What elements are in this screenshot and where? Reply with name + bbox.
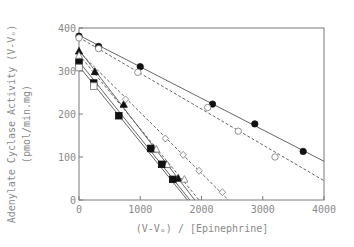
x-tick-label: 2000 — [189, 204, 213, 215]
open-diamond-marker — [219, 189, 225, 196]
y-axis-title: Adenylate Cyclase Activity (V-Vₒ) — [6, 25, 17, 224]
open-circle-marker — [95, 45, 101, 51]
open-square-marker — [90, 83, 97, 90]
open-circle-marker — [135, 69, 141, 75]
open-circle-marker — [76, 35, 82, 41]
x-tick-label: 4000 — [312, 204, 336, 215]
x-tick-label: 1000 — [128, 204, 152, 215]
open-diamond-marker — [180, 151, 186, 158]
y-axis-units: (pmol/min.mg) — [21, 85, 32, 163]
x-axis-title: (V-Vₒ) / [Epinephrine] — [136, 223, 268, 234]
y-tick-label: 300 — [58, 66, 76, 77]
fit-line-open-circle — [79, 37, 324, 180]
y-tick-label: 200 — [58, 109, 76, 120]
filled-circle-marker — [300, 148, 306, 154]
open-circle-marker — [272, 154, 278, 160]
open-diamond-marker — [162, 135, 168, 142]
y-tick-label: 0 — [70, 195, 76, 206]
y-tick-label: 400 — [58, 23, 76, 34]
data-markers — [75, 33, 306, 196]
open-circle-marker — [204, 104, 210, 110]
filled-square-marker — [169, 176, 176, 183]
filled-square-marker — [158, 161, 165, 168]
x-tick-label: 3000 — [251, 204, 275, 215]
filled-square-marker — [147, 145, 154, 152]
open-circle-marker — [235, 128, 241, 134]
filled-square-marker — [116, 112, 123, 119]
y-tick-label: 100 — [58, 152, 76, 163]
filled-circle-marker — [252, 121, 258, 127]
open-square-marker — [76, 64, 83, 71]
x-tick-label: 0 — [76, 204, 82, 215]
chart: 010002000300040000100200300400 (V-Vₒ) / … — [0, 0, 354, 247]
